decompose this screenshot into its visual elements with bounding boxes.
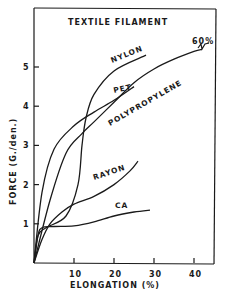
x-tick-label: 10 <box>69 270 82 279</box>
curve-rayon <box>34 161 138 263</box>
y-tick-label: 3 <box>23 141 30 150</box>
x-axis-label: ELONGATION (%) <box>70 281 160 290</box>
label-nylon: NYLON <box>109 44 144 65</box>
x-tick-label: 30 <box>149 270 162 279</box>
y-axis-label: FORCE (G./den.) <box>9 118 18 205</box>
axis-ticks <box>34 67 194 263</box>
label-pet: PET <box>113 82 133 95</box>
y-tick-label: 4 <box>23 102 30 111</box>
y-tick-label: 5 <box>23 63 30 72</box>
force-elongation-chart: 1020304012345 TEXTILE FILAMENT 60% NYLON… <box>0 0 229 298</box>
y-tick-label: 1 <box>23 220 30 229</box>
x-tick-label: 20 <box>109 270 122 279</box>
chart-canvas: 1020304012345 TEXTILE FILAMENT 60% NYLON… <box>0 0 229 298</box>
break-label: 60% <box>192 37 214 46</box>
y-tick-label: 2 <box>23 181 30 190</box>
plot-frame <box>34 8 216 264</box>
chart-title: TEXTILE FILAMENT <box>68 18 168 27</box>
label-ca: CA <box>115 201 128 210</box>
x-tick-label: 40 <box>189 270 202 279</box>
curve-ca <box>34 210 150 263</box>
